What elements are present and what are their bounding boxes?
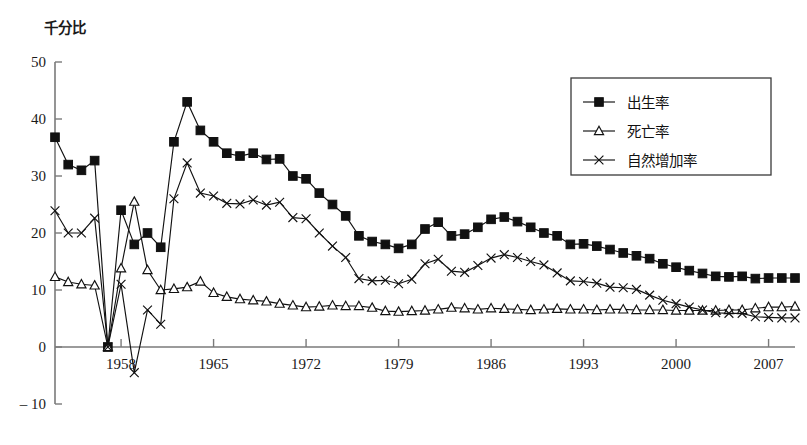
data-point-marker [116,264,125,272]
data-point-marker [275,198,284,207]
y-axis-tick-label: 10 [31,282,46,298]
data-point-marker [473,261,482,270]
data-point-marker [711,272,720,281]
legend-label: 自然增加率 [627,153,697,169]
data-point-marker [275,155,284,164]
data-point-marker [209,288,218,296]
data-point-marker [790,302,799,310]
data-point-marker [130,197,139,205]
data-point-marker [645,305,654,313]
data-point-marker [513,253,522,262]
y-axis-unit-label: 千分比 [44,19,86,36]
data-point-marker [619,249,628,258]
x-axis-tick-label: 1979 [384,356,414,372]
data-point-marker [421,225,430,234]
data-point-marker [553,304,562,312]
data-point-marker [487,215,496,224]
data-point-marker [249,149,258,158]
data-point-marker [540,261,549,270]
data-point-marker [394,244,403,253]
data-point-marker [209,192,218,201]
data-point-marker [606,245,615,254]
data-point-marker [672,263,681,272]
data-point-marker [645,254,654,263]
data-point-marker [447,232,456,241]
x-axis-tick-label: 2007 [754,356,785,372]
data-point-marker [434,218,443,227]
data-point-marker [738,272,747,281]
data-point-marker [77,166,86,175]
x-axis-tick-label: 1986 [476,356,507,372]
data-point-marker [486,303,495,311]
data-point-marker [64,160,73,169]
y-axis-tick-label: 40 [31,111,46,127]
demographic-line-chart: – 10010203040501958196519721979198619932… [0,0,807,445]
y-axis-tick-label: 30 [31,168,46,184]
data-point-marker [302,175,311,184]
data-point-marker [579,240,588,249]
data-point-marker [685,266,694,275]
data-point-marker [315,229,324,238]
data-point-marker [540,229,549,238]
data-point-marker [605,305,614,313]
data-point-marker [595,98,604,107]
data-point-marker [553,232,562,241]
data-point-marker [526,257,535,266]
data-point-marker [209,138,218,147]
data-point-marker [513,217,522,226]
x-axis-tick-label: 1972 [291,356,321,372]
data-point-marker [222,149,231,158]
data-point-marker [658,305,667,313]
legend-label: 出生率 [627,95,669,111]
data-point-marker [64,277,73,285]
legend-label: 死亡率 [627,124,669,140]
data-point-marker [328,301,337,309]
data-point-marker [764,302,773,310]
data-point-marker [315,189,324,198]
data-point-marker [632,252,641,261]
data-point-marker [434,255,443,264]
data-point-marker [51,133,60,142]
y-axis-tick-label: – 10 [19,396,46,412]
data-point-marker [777,274,786,283]
x-axis-tick-label: 1965 [199,356,229,372]
data-point-marker [50,272,59,280]
data-point-marker [196,126,205,135]
chart-root: – 10010203040501958196519721979198619932… [0,0,807,445]
data-point-marker [698,269,707,278]
data-point-marker [645,291,654,300]
data-point-marker [474,223,483,232]
data-point-marker [328,200,337,209]
data-point-marker [579,305,588,313]
data-point-marker [183,98,192,107]
data-point-marker [289,172,298,181]
data-point-marker [487,254,496,263]
data-point-marker [196,189,205,198]
series-polyline [55,163,795,373]
x-axis-tick-label: 1993 [569,356,599,372]
data-point-marker [341,212,350,221]
data-point-marker [143,265,152,273]
data-point-marker [619,305,628,313]
data-point-marker [553,269,562,278]
data-point-marker [592,242,601,251]
data-point-marker [262,201,271,210]
data-point-marker [659,259,668,268]
data-point-marker [328,242,337,251]
data-point-marker [262,155,271,164]
data-point-marker [196,277,205,285]
data-point-marker [183,282,192,290]
y-axis-tick-label: 50 [31,54,46,70]
data-point-marker [143,229,152,238]
data-point-marker [183,158,192,167]
data-point-marker [500,250,509,259]
data-point-marker [368,237,377,246]
data-point-marker [117,206,126,215]
data-point-marker [407,240,416,249]
data-point-marker [725,273,734,282]
data-point-marker [341,253,350,262]
data-point-marker [751,274,760,283]
data-point-marker [249,196,258,205]
data-point-marker [354,301,363,309]
legend-layer: 出生率死亡率自然增加率 [571,78,771,175]
